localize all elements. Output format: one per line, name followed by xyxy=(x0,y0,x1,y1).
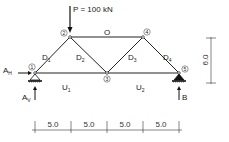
label-u1: U1 xyxy=(62,83,71,93)
label-u2: U2 xyxy=(136,83,145,93)
height-dimension: 6.0 xyxy=(201,37,216,84)
label-d1: D1 xyxy=(42,53,51,63)
load-label: P = 100 kN xyxy=(73,5,113,14)
truss-joints xyxy=(34,36,181,75)
support-a-pin-icon xyxy=(28,74,42,82)
label-d3: D3 xyxy=(128,53,137,63)
span-dimensions: 5.0 5.0 5.0 5.0 xyxy=(32,120,182,133)
reaction-ah-arrow-right-icon xyxy=(28,71,32,75)
reaction-ah: AH xyxy=(3,66,32,76)
reaction-b-label: B xyxy=(182,93,187,102)
node-5-label: 5 xyxy=(184,66,187,72)
truss-diagram: 1 2 3 4 5 D1 D2 D3 D4 O U1 U2 P = 100 kN xyxy=(0,0,229,142)
support-b-pin-icon xyxy=(172,74,186,82)
member-d1 xyxy=(35,37,70,73)
member-labels: D1 D2 D3 D4 O U1 U2 xyxy=(42,28,172,93)
span-label-4: 5.0 xyxy=(155,120,167,129)
span-label-1: 5.0 xyxy=(47,120,59,129)
reaction-ah-label: AH xyxy=(3,66,12,76)
span-label-2: 5.0 xyxy=(83,120,95,129)
height-dimension-label: 6.0 xyxy=(201,54,210,66)
reaction-av-arrow-up-icon xyxy=(33,86,37,90)
reaction-b: B xyxy=(177,86,187,102)
load-arrow-down-icon xyxy=(68,27,73,33)
truss-members xyxy=(35,37,179,73)
member-d3 xyxy=(107,37,143,73)
label-o: O xyxy=(104,28,110,37)
node-2-label: 2 xyxy=(63,30,66,36)
label-d2: D2 xyxy=(76,53,85,63)
joint-3 xyxy=(106,72,109,75)
joint-2 xyxy=(69,36,72,39)
reaction-av: AV xyxy=(22,86,37,103)
reaction-b-arrow-up-icon xyxy=(177,86,181,90)
reaction-av-label: AV xyxy=(22,93,31,103)
member-d4 xyxy=(143,37,179,73)
node-3-label: 3 xyxy=(106,76,109,82)
node-1-label: 1 xyxy=(31,64,34,70)
span-label-3: 5.0 xyxy=(119,120,131,129)
node-4-label: 4 xyxy=(146,29,149,35)
label-d4: D4 xyxy=(163,53,172,63)
joint-4 xyxy=(142,36,145,39)
